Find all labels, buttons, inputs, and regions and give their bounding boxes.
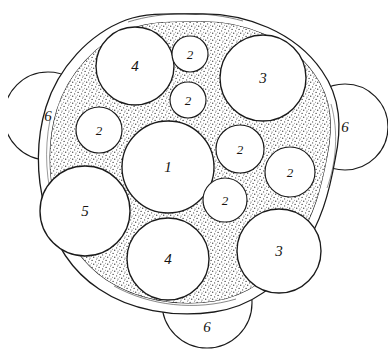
circle-2-top-b[interactable] bbox=[170, 82, 206, 118]
circle-4-top[interactable] bbox=[96, 27, 174, 105]
circle-3-bottom-right[interactable] bbox=[237, 209, 321, 293]
circle-2-left[interactable] bbox=[76, 107, 122, 153]
circle-packing-diagram: 143543222222666 bbox=[0, 0, 390, 364]
circle-5-left[interactable] bbox=[40, 166, 130, 256]
circle-2-mid-right[interactable] bbox=[216, 125, 264, 173]
circle-3-top-right[interactable] bbox=[220, 35, 306, 121]
circle-2-top-a[interactable] bbox=[172, 36, 208, 72]
circle-2-lower-mid[interactable] bbox=[203, 178, 247, 222]
circle-1-center[interactable] bbox=[122, 121, 214, 213]
circle-2-far-right[interactable] bbox=[265, 147, 315, 197]
circle-4-bottom[interactable] bbox=[127, 218, 209, 300]
figure-root: 143543222222666 bbox=[0, 0, 390, 364]
